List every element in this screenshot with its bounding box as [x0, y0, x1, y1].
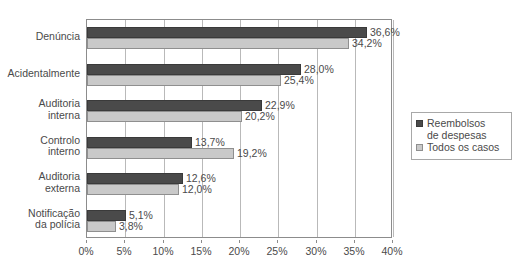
- bar: [87, 75, 281, 86]
- bar-group-item: 12,0%: [87, 184, 393, 195]
- bar-value-label: 3,8%: [116, 220, 143, 232]
- x-axis-tick-label: 15%: [181, 245, 221, 257]
- x-axis-tick: [277, 240, 278, 243]
- plot-area: 36,6%34,2%28,0%25,4%22,9%20,2%13,7%19,2%…: [86, 19, 392, 238]
- bar: [87, 100, 262, 111]
- gridline: [202, 20, 203, 237]
- bar-group-item: 12,6%: [87, 173, 393, 184]
- x-axis-tick-label: 40%: [372, 245, 412, 257]
- bar-value-label: 20,2%: [242, 110, 275, 122]
- x-axis: 0%5%10%15%20%25%30%35%40%: [86, 240, 392, 260]
- category-label: Acidentalmente: [0, 68, 80, 80]
- bar: [87, 27, 367, 38]
- legend-label: Reembolsos de despesas: [427, 118, 487, 141]
- bar: [87, 184, 179, 195]
- bar-value-label: 19,2%: [234, 147, 267, 159]
- bar-group-item: 34,2%: [87, 38, 393, 49]
- gridline: [125, 20, 126, 237]
- x-axis-tick: [392, 240, 393, 243]
- bar: [87, 148, 234, 159]
- x-axis-tick-label: 30%: [296, 245, 336, 257]
- x-axis-tick: [124, 240, 125, 243]
- bar-value-label: 13,7%: [192, 136, 225, 148]
- bar-chart: 36,6%34,2%28,0%25,4%22,9%20,2%13,7%19,2%…: [0, 0, 519, 267]
- gridline: [240, 20, 241, 237]
- bar-group-item: 25,4%: [87, 75, 393, 86]
- bar-group-item: 28,0%: [87, 64, 393, 75]
- category-label: Controlo interno: [0, 135, 80, 158]
- bar-value-label: 34,2%: [349, 37, 382, 49]
- legend-swatch-dark: [416, 120, 423, 127]
- category-label: Auditoria interna: [0, 98, 80, 121]
- bar-value-label: 25,4%: [281, 74, 314, 86]
- x-axis-tick-label: 20%: [219, 245, 259, 257]
- x-axis-tick-label: 0%: [66, 245, 106, 257]
- x-axis-tick: [86, 240, 87, 243]
- x-axis-tick-label: 10%: [143, 245, 183, 257]
- bar: [87, 111, 242, 122]
- bar: [87, 173, 183, 184]
- category-label: Notificação da polícia: [0, 208, 80, 231]
- category-label: Auditoria externa: [0, 171, 80, 194]
- legend-item: Todos os casos: [416, 142, 506, 154]
- category-label: Denúncia: [0, 31, 80, 43]
- x-axis-tick-label: 35%: [334, 245, 374, 257]
- bar-group-item: 22,9%: [87, 100, 393, 111]
- x-axis-tick: [316, 240, 317, 243]
- chart-legend: Reembolsos de despesasTodos os casos: [411, 112, 512, 160]
- x-axis-tick: [201, 240, 202, 243]
- legend-item: Reembolsos de despesas: [416, 118, 506, 141]
- gridline: [393, 20, 394, 237]
- bar-group-item: 20,2%: [87, 111, 393, 122]
- x-axis-tick-label: 5%: [104, 245, 144, 257]
- bar-group-item: 19,2%: [87, 148, 393, 159]
- bar: [87, 38, 349, 49]
- bar: [87, 64, 301, 75]
- x-axis-tick: [239, 240, 240, 243]
- x-axis-tick: [354, 240, 355, 243]
- x-axis-tick-label: 25%: [257, 245, 297, 257]
- gridline: [278, 20, 279, 237]
- x-axis-tick: [163, 240, 164, 243]
- bar: [87, 221, 116, 232]
- legend-swatch-light: [416, 144, 423, 151]
- gridline: [317, 20, 318, 237]
- bar-value-label: 12,0%: [179, 183, 212, 195]
- gridline: [164, 20, 165, 237]
- chart-title: [0, 0, 519, 10]
- bar-group-item: 3,8%: [87, 221, 393, 232]
- legend-label: Todos os casos: [427, 142, 499, 154]
- bar-group-item: 36,6%: [87, 27, 393, 38]
- gridline: [355, 20, 356, 237]
- bar: [87, 137, 192, 148]
